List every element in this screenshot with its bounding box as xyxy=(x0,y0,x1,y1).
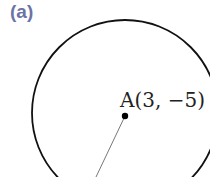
circle-diagram: A(3, −5) xyxy=(0,0,210,177)
radius-line xyxy=(96,116,125,177)
center-point-label: A(3, −5) xyxy=(119,88,205,112)
center-point-dot xyxy=(122,113,128,119)
